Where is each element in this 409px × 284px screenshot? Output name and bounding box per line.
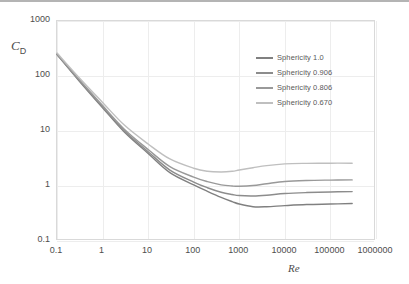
gridline-vertical (376, 21, 377, 239)
y-axis-title-subscript: D (20, 46, 27, 56)
y-tick-label: 100 (6, 69, 50, 79)
legend-item[interactable]: Sphericity 0.806 (256, 80, 376, 95)
drag-coefficient-chart: 0.11101001000 0.111010010001000010000010… (0, 0, 409, 284)
y-tick-label: 1 (6, 179, 50, 189)
legend-item[interactable]: Sphericity 0.670 (256, 95, 376, 110)
gridline-horizontal (57, 241, 374, 242)
legend-line-swatch (256, 57, 273, 59)
legend-label: Sphericity 0.806 (277, 83, 332, 92)
y-axis-title: CD (11, 38, 26, 56)
y-tick-label: 0.1 (6, 234, 50, 244)
y-tick-label: 1000 (6, 14, 50, 24)
legend-line-swatch (256, 72, 273, 74)
x-axis-title: Re (288, 262, 300, 274)
legend-label: Sphericity 1.0 (277, 53, 324, 62)
chart-legend: Sphericity 1.0Sphericity 0.906Sphericity… (256, 50, 376, 110)
y-tick-label: 10 (6, 124, 50, 134)
legend-label: Sphericity 0.906 (277, 68, 332, 77)
legend-line-swatch (256, 102, 273, 104)
legend-line-swatch (256, 87, 273, 89)
y-axis-title-main: C (11, 38, 20, 53)
legend-item[interactable]: Sphericity 0.906 (256, 65, 376, 80)
legend-label: Sphericity 0.670 (277, 98, 332, 107)
legend-item[interactable]: Sphericity 1.0 (256, 50, 376, 65)
x-tick-label: 1000000 (345, 245, 405, 255)
